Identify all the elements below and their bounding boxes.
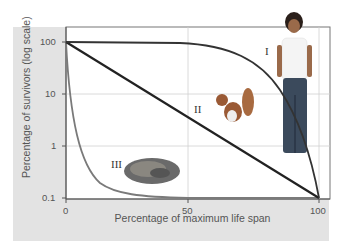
curve-I-label: I	[265, 45, 269, 57]
curve-II-label: II	[194, 103, 201, 115]
y-axis-label: Percentage of survivors (log scale)	[20, 38, 32, 178]
y-tick-1: 1	[51, 140, 56, 151]
y-tick-0-1: 0.1	[42, 192, 55, 203]
curve-III-label: III	[111, 158, 122, 170]
y-tick-100: 100	[40, 36, 56, 47]
x-axis-label: Percentage of maximum life span	[66, 212, 319, 224]
oyster-illustration	[124, 158, 180, 184]
y-tick-10: 10	[45, 88, 56, 99]
